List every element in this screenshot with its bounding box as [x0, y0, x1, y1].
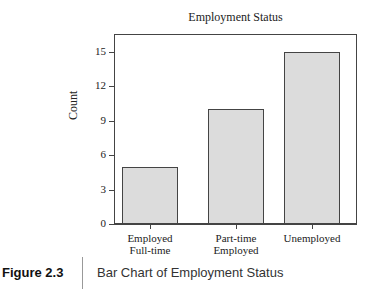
- x-tick: [150, 224, 151, 229]
- caption-divider: [82, 257, 83, 289]
- y-axis: [114, 34, 115, 224]
- y-tick-label: 3: [80, 183, 106, 195]
- y-tick-label: 9: [80, 114, 106, 126]
- y-tick: [109, 155, 114, 156]
- y-tick-label: 12: [80, 79, 106, 91]
- y-tick-label: 6: [80, 148, 106, 160]
- y-tick: [109, 52, 114, 53]
- caption-text: Bar Chart of Employment Status: [97, 265, 283, 280]
- x-tick-label: EmployedFull-time: [110, 232, 190, 256]
- y-tick-label: 15: [80, 45, 106, 57]
- y-tick: [109, 121, 114, 122]
- y-axis-title: Count: [66, 91, 81, 120]
- y-tick: [109, 190, 114, 191]
- chart-title: Employment Status: [114, 10, 357, 25]
- x-tick-label: Part-timeEmployed: [196, 232, 276, 256]
- x-tick: [236, 224, 237, 229]
- x-tick-label: Unemployed: [272, 232, 352, 244]
- x-tick: [312, 224, 313, 229]
- bar: [208, 109, 264, 224]
- bar: [122, 167, 178, 225]
- y-tick-label: 0: [80, 217, 106, 229]
- y-tick: [109, 86, 114, 87]
- y-tick: [109, 224, 114, 225]
- figure-label: Figure 2.3: [2, 265, 63, 280]
- bar: [284, 52, 340, 225]
